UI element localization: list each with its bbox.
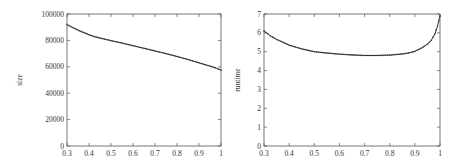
y-tick-label: 2 bbox=[257, 104, 261, 113]
x-tick-label: 1 bbox=[219, 149, 223, 158]
y-tick-label: 40000 bbox=[45, 89, 64, 98]
y-axis-label: runtime bbox=[233, 68, 242, 92]
x-tick-label: 0.6 bbox=[335, 149, 345, 158]
plot-frame bbox=[67, 14, 221, 146]
y-tick-label: 100000 bbox=[42, 10, 65, 19]
x-tick-label: 0.8 bbox=[385, 149, 395, 158]
y-tick-label: 4 bbox=[257, 66, 261, 75]
x-tick-label: 0.7 bbox=[150, 149, 160, 158]
x-tick-label: 0.8 bbox=[172, 149, 182, 158]
y-tick-label: 80000 bbox=[45, 36, 64, 45]
x-tick-label: 0.6 bbox=[128, 149, 138, 158]
y-tick-label: 0 bbox=[257, 142, 261, 151]
y-axis-label: size bbox=[15, 74, 24, 86]
x-tick-label: 0.7 bbox=[360, 149, 370, 158]
y-tick-label: 6 bbox=[257, 28, 261, 37]
chart-canvas: 0.30.40.50.60.70.80.91020000400006000080… bbox=[0, 0, 462, 168]
x-tick-label: 1 bbox=[438, 149, 442, 158]
y-tick-label: 5 bbox=[257, 47, 261, 56]
x-tick-label: 0.9 bbox=[410, 149, 420, 158]
y-tick-label: 7 bbox=[257, 10, 261, 19]
data-line bbox=[67, 25, 221, 71]
x-tick-label: 0.4 bbox=[284, 149, 294, 158]
x-tick-label: 0.4 bbox=[84, 149, 94, 158]
plot-frame bbox=[264, 14, 440, 146]
runtime-chart: 0.30.40.50.60.70.80.9101234567runtime bbox=[233, 10, 442, 159]
data-line bbox=[264, 16, 440, 56]
x-tick-label: 0.5 bbox=[310, 149, 320, 158]
y-tick-label: 1 bbox=[257, 123, 261, 132]
y-tick-label: 60000 bbox=[45, 62, 64, 71]
size-chart: 0.30.40.50.60.70.80.91020000400006000080… bbox=[15, 10, 223, 159]
y-tick-label: 0 bbox=[60, 142, 64, 151]
y-tick-label: 3 bbox=[257, 85, 261, 94]
x-tick-label: 0.5 bbox=[106, 149, 116, 158]
y-tick-label: 20000 bbox=[45, 115, 64, 124]
x-tick-label: 0.9 bbox=[194, 149, 204, 158]
